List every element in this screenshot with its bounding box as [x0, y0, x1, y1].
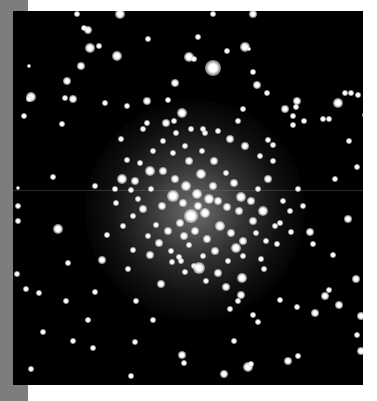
star — [104, 232, 110, 238]
star — [160, 138, 166, 144]
star — [203, 278, 209, 284]
star — [263, 238, 269, 244]
star — [150, 317, 156, 323]
star — [214, 197, 222, 205]
star — [140, 126, 146, 132]
star — [357, 312, 363, 320]
star — [40, 329, 46, 335]
star — [50, 174, 56, 180]
star — [210, 11, 216, 17]
star — [247, 47, 251, 51]
star — [301, 118, 307, 124]
star — [264, 175, 272, 183]
star — [274, 241, 280, 247]
star — [333, 98, 343, 108]
star — [124, 157, 130, 163]
star — [352, 275, 360, 283]
star — [118, 136, 124, 142]
star — [62, 95, 68, 101]
star — [145, 233, 151, 239]
star — [53, 224, 63, 234]
star — [248, 361, 254, 367]
star — [120, 223, 126, 229]
star — [203, 235, 211, 243]
star — [70, 338, 76, 344]
star — [284, 357, 292, 365]
star — [21, 113, 27, 119]
star — [16, 186, 20, 190]
star — [281, 105, 289, 113]
star — [96, 43, 102, 49]
star — [159, 167, 167, 175]
star — [225, 258, 231, 264]
star — [250, 69, 256, 75]
star — [177, 108, 187, 118]
star — [354, 332, 360, 338]
star — [112, 51, 122, 61]
star — [311, 309, 319, 317]
star — [15, 203, 21, 209]
star — [178, 351, 186, 359]
star — [295, 186, 301, 192]
star — [237, 273, 247, 283]
star — [255, 319, 261, 325]
star — [173, 130, 179, 136]
star — [181, 360, 187, 366]
star — [199, 148, 205, 154]
star — [146, 251, 154, 259]
star — [85, 317, 91, 323]
star — [224, 48, 230, 54]
star — [357, 347, 363, 355]
star — [241, 142, 249, 150]
star — [81, 25, 87, 31]
star — [92, 183, 98, 189]
star — [220, 370, 228, 378]
star — [346, 138, 352, 144]
star — [253, 81, 261, 89]
star — [26, 96, 32, 102]
star — [181, 181, 191, 191]
star — [143, 97, 151, 105]
star — [231, 338, 237, 344]
star — [182, 143, 188, 149]
star — [293, 104, 299, 110]
star — [185, 157, 193, 165]
star — [128, 187, 134, 193]
star — [153, 222, 159, 228]
star — [192, 189, 202, 199]
star — [227, 229, 235, 237]
star — [202, 130, 208, 136]
star — [125, 266, 131, 272]
star — [326, 287, 332, 293]
star — [330, 252, 336, 258]
star — [63, 77, 71, 85]
star — [249, 11, 257, 18]
star — [117, 174, 127, 184]
star — [85, 43, 95, 53]
star — [113, 200, 119, 206]
star — [258, 206, 268, 216]
star — [194, 202, 202, 210]
star — [165, 97, 171, 103]
star — [200, 208, 210, 218]
star — [264, 90, 270, 96]
star — [209, 182, 217, 190]
star — [193, 262, 205, 274]
star — [182, 269, 188, 275]
star — [59, 121, 65, 127]
star — [348, 90, 354, 96]
star — [235, 118, 241, 124]
star — [196, 169, 206, 179]
star — [236, 192, 246, 202]
star — [157, 280, 165, 288]
star — [362, 112, 363, 118]
star — [195, 34, 201, 40]
star — [210, 157, 218, 165]
star — [130, 213, 136, 219]
star — [171, 175, 179, 183]
star — [164, 227, 172, 235]
star — [215, 221, 225, 231]
star — [176, 219, 184, 227]
star — [98, 256, 106, 264]
star — [102, 100, 108, 106]
